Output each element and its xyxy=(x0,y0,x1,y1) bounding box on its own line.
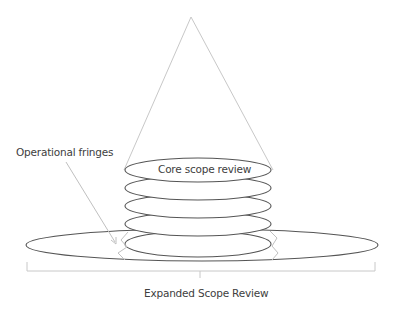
fringe-zigzag-right xyxy=(270,231,278,260)
cone-left-edge xyxy=(124,17,191,170)
expanded-scope-bracket xyxy=(27,262,375,271)
expanded-scope-label: Expanded Scope Review xyxy=(144,287,268,299)
fringe-zigzag-left xyxy=(118,232,128,260)
core-scope-label: Core scope review xyxy=(158,163,251,175)
fringes-pointer-line xyxy=(66,162,115,242)
operational-fringes-label: Operational fringes xyxy=(16,146,113,158)
cone-right-edge xyxy=(191,17,273,170)
